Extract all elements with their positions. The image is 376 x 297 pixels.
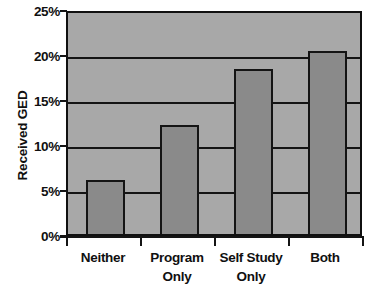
x-axis-tick-mark <box>288 238 290 246</box>
y-axis-tick-mark <box>60 145 67 147</box>
x-axis-tick-label-line: Self Study <box>219 250 282 265</box>
x-axis-tick-mark <box>362 238 364 246</box>
bar <box>86 180 125 234</box>
x-axis-tick-label-line: Only <box>208 267 294 286</box>
x-axis-tick-labels: NeitherProgramOnlySelf StudyOnlyBoth <box>0 248 376 297</box>
x-axis-tick-mark <box>214 238 216 246</box>
y-axis-tick-mark <box>60 55 67 57</box>
x-axis-tick-mark <box>140 238 142 246</box>
y-axis-tick-mark <box>60 235 67 237</box>
bar <box>234 69 273 234</box>
y-axis-tick-mark <box>60 10 67 12</box>
y-axis-tick-label: 20% <box>14 49 60 64</box>
x-axis-tick-mark <box>66 238 68 246</box>
x-axis-tick-label-line: Program <box>150 250 203 265</box>
y-axis-tick-label: 15% <box>14 94 60 109</box>
x-axis-line <box>60 236 364 238</box>
y-axis-tick-label: 5% <box>14 184 60 199</box>
bar <box>308 51 347 234</box>
bars <box>68 13 360 234</box>
bar <box>160 125 199 234</box>
bar-chart: Received GED 0%5%10%15%20%25% NeitherPro… <box>0 0 376 297</box>
plot-area <box>66 11 362 236</box>
x-axis-tick-label: Both <box>282 248 368 267</box>
y-axis-tick-label: 25% <box>14 4 60 19</box>
y-axis-tick-mark <box>60 190 67 192</box>
y-axis-tick-mark <box>60 100 67 102</box>
y-axis-tick-label: 10% <box>14 139 60 154</box>
y-axis-tick-label: 0% <box>14 229 60 244</box>
x-axis-tick-label-line: Neither <box>81 250 125 265</box>
x-axis-tick-label-line: Both <box>310 250 340 265</box>
